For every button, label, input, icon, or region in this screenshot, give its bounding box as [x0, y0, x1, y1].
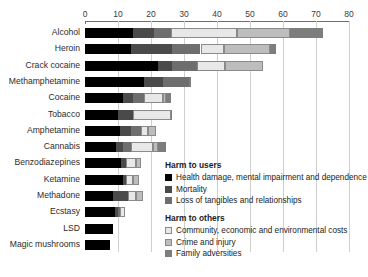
bar-segment — [126, 175, 133, 185]
legend-item-label: Mortality — [176, 185, 207, 194]
bar-segment — [270, 44, 277, 54]
bar-segment — [237, 28, 290, 38]
x-axis-tick-label: 40 — [212, 9, 221, 19]
x-axis-tick-label: 70 — [311, 9, 320, 19]
legend-item-label: Crime and injury — [176, 238, 236, 247]
stacked-bar-chart: 01020304050607080 AlcoholHeroinCrack coc… — [0, 0, 368, 277]
bar-segment — [172, 44, 200, 54]
bar-segment — [154, 28, 171, 38]
legend-item[interactable]: Health damage, mental impairment and dep… — [165, 173, 367, 182]
bar-segment — [163, 77, 189, 87]
legend-item[interactable]: Loss of tangibles and relationships — [165, 196, 367, 205]
bar-segment — [128, 191, 136, 201]
legend-swatch-icon — [165, 174, 172, 181]
category-label: Alcohol — [0, 27, 80, 37]
x-axis-tick-label: 80 — [344, 9, 353, 19]
bar-segment — [131, 142, 152, 152]
bar-segment — [123, 93, 133, 103]
category-label: Heroin — [0, 43, 80, 53]
legend-item[interactable]: Family adversities — [165, 249, 367, 258]
bar-segment — [85, 224, 113, 234]
legend-item-label: Health damage, mental impairment and dep… — [176, 173, 367, 182]
bar-segment — [85, 28, 133, 38]
legend-item[interactable]: Mortality — [165, 185, 367, 194]
category-label: Methadone — [0, 190, 80, 200]
bar-segment — [136, 191, 143, 201]
bar-segment — [144, 77, 162, 87]
bar-segment — [225, 61, 263, 71]
x-axis-tick-label: 10 — [113, 9, 122, 19]
category-label: Amphetamine — [0, 125, 80, 135]
bar-segment — [118, 110, 133, 120]
bar-segment — [201, 44, 224, 54]
bar-segment — [85, 175, 123, 185]
legend-others-items: Community, economic and environmental co… — [165, 226, 367, 258]
bar-segment — [85, 191, 113, 201]
legend-swatch-icon — [165, 227, 172, 234]
bar-segment — [126, 158, 136, 168]
legend-item[interactable]: Crime and injury — [165, 238, 367, 247]
legend-swatch-icon — [165, 197, 172, 204]
x-axis-tick-mark — [85, 21, 86, 24]
legend-swatch-icon — [165, 250, 172, 257]
category-label: Tobacco — [0, 109, 80, 119]
bar-segment — [197, 61, 225, 71]
bar-segment — [171, 110, 173, 120]
legend-item-label: Loss of tangibles and relationships — [176, 196, 302, 205]
bar-segment — [85, 110, 118, 120]
bar-segment — [166, 93, 171, 103]
category-label: Magic mushrooms — [0, 239, 80, 249]
category-label: Benzodiazepines — [0, 157, 80, 167]
legend-users-items: Health damage, mental impairment and dep… — [165, 173, 367, 205]
bar-segment — [189, 77, 191, 87]
legend-item-label: Family adversities — [176, 249, 242, 258]
legend-group-others-title: Harm to others — [165, 213, 367, 223]
bar-segment — [85, 142, 116, 152]
bar-segment — [85, 61, 158, 71]
bar-segment — [85, 44, 131, 54]
legend-group-users-title: Harm to users — [165, 160, 367, 170]
bar-segment — [171, 28, 237, 38]
bar-segment — [158, 61, 173, 71]
bar-segment — [85, 158, 121, 168]
bar-segment — [144, 93, 162, 103]
legend-item-label: Community, economic and environmental co… — [176, 226, 347, 235]
bar-segment — [131, 126, 141, 136]
chart-legend: Harm to users Health damage, mental impa… — [165, 160, 367, 261]
category-label: Cannabis — [0, 141, 80, 151]
legend-item[interactable]: Community, economic and environmental co… — [165, 226, 367, 235]
bar-segment — [85, 93, 123, 103]
x-axis-tick-label: 50 — [245, 9, 254, 19]
bar-segment — [158, 142, 166, 152]
category-label: Crack cocaine — [0, 60, 80, 70]
x-axis-tick-label: 0 — [83, 9, 88, 19]
category-label: LSD — [0, 223, 80, 233]
bar-segment — [113, 191, 128, 201]
x-axis-tick-label: 30 — [179, 9, 188, 19]
legend-swatch-icon — [165, 186, 172, 193]
category-label: Ketamine — [0, 174, 80, 184]
bar-segment — [290, 28, 323, 38]
gridline — [151, 21, 152, 252]
category-label: Ecstasy — [0, 206, 80, 216]
x-axis-tick-label: 60 — [278, 9, 287, 19]
bar-segment — [136, 158, 141, 168]
bar-segment — [172, 61, 197, 71]
bar-segment — [141, 126, 148, 136]
bar-segment — [133, 175, 140, 185]
bar-segment — [131, 44, 172, 54]
bar-segment — [120, 207, 125, 217]
bar-segment — [85, 77, 144, 87]
bar-segment — [133, 93, 145, 103]
bar-segment — [133, 28, 154, 38]
bar-segment — [120, 126, 132, 136]
x-axis-tick-label: 20 — [146, 9, 155, 19]
bar-segment — [133, 110, 171, 120]
legend-swatch-icon — [165, 239, 172, 246]
bar-segment — [123, 142, 131, 152]
category-label: Cocaine — [0, 92, 80, 102]
bar-segment — [85, 207, 115, 217]
bar-segment — [148, 126, 156, 136]
bar-segment — [224, 44, 270, 54]
category-label: Methamphetamine — [0, 76, 80, 86]
